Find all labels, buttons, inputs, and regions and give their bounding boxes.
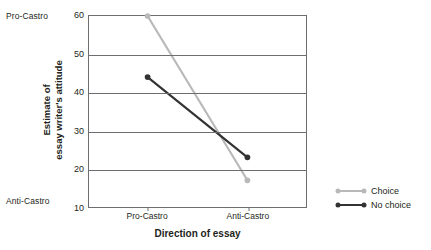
y-axis-tick-label: 20: [60, 164, 84, 174]
y-axis-tick-label: 60: [60, 10, 84, 20]
y-axis-title-line-1: Estimate of: [41, 15, 53, 205]
legend-label: No choice: [371, 200, 411, 210]
legend-label: Choice: [371, 186, 399, 196]
x-axis-tick-labels: Pro-CastroAnti-Castro: [88, 211, 307, 225]
y-axis-tick-labels: 605040302010: [60, 15, 84, 208]
gridline: [89, 55, 306, 56]
y-axis-tick-label: 30: [60, 126, 84, 136]
legend-color-swatch: [336, 200, 366, 210]
x-axis-title: Direction of essay: [88, 228, 307, 239]
chart-legend: ChoiceNo choice: [336, 184, 428, 212]
y-axis-tick-label: 40: [60, 87, 84, 97]
gridline: [89, 93, 306, 94]
data-point-marker: [145, 13, 151, 19]
data-point-marker: [145, 74, 151, 80]
legend-color-swatch: [336, 186, 366, 196]
legend-item[interactable]: Choice: [336, 184, 428, 198]
y-axis-tick-label: 10: [60, 203, 84, 213]
data-series-layer: [89, 16, 306, 207]
series-line-no-choice: [148, 77, 248, 157]
gridline: [89, 170, 306, 171]
data-point-marker: [245, 154, 251, 160]
y-axis-tick-label: 50: [60, 49, 84, 59]
line-chart-figure: Pro-Castro Anti-Castro Estimate of essay…: [0, 0, 431, 250]
x-axis-tick-label: Pro-Castro: [127, 211, 168, 221]
gridline: [89, 132, 306, 133]
x-axis-tick-label: Anti-Castro: [227, 211, 270, 221]
data-point-marker: [245, 177, 251, 183]
series-line-choice: [148, 16, 248, 180]
plot-area: [88, 15, 307, 208]
legend-item[interactable]: No choice: [336, 198, 428, 212]
